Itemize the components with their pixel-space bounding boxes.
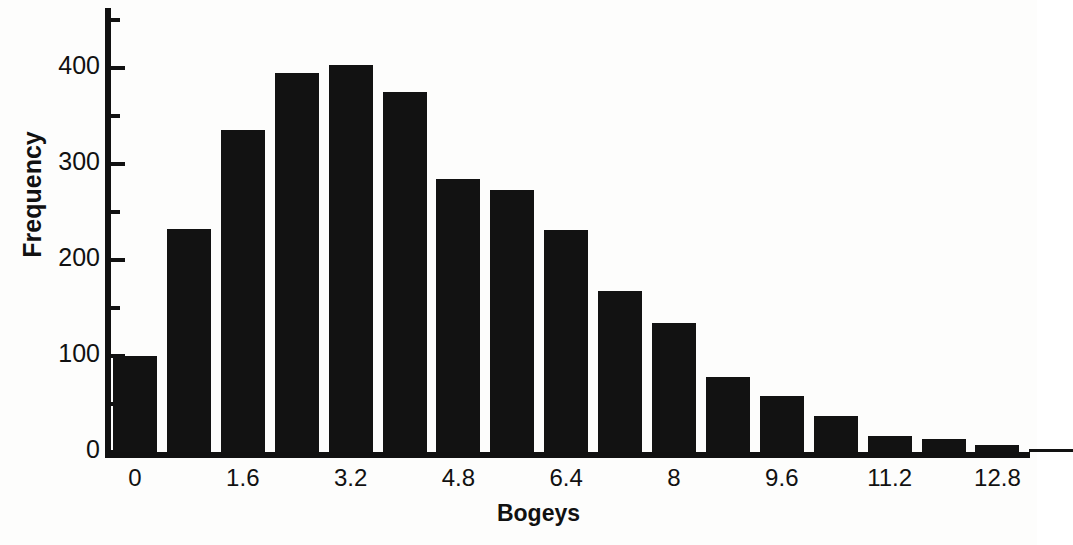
histogram-bar xyxy=(652,323,696,452)
histogram-bar xyxy=(598,291,642,452)
y-tick-minor xyxy=(111,306,120,310)
histogram-bar xyxy=(760,396,804,452)
histogram-bar xyxy=(814,416,858,452)
x-tick-label: 8 xyxy=(629,464,719,492)
y-tick-label: 300 xyxy=(20,147,100,176)
x-tick-label: 6.4 xyxy=(521,464,611,492)
y-tick-major xyxy=(111,162,125,166)
histogram-bar xyxy=(922,439,966,452)
y-tick-major xyxy=(111,258,125,262)
y-tick-minor xyxy=(111,210,120,214)
histogram-bar xyxy=(490,190,534,452)
histogram-bar xyxy=(436,179,480,452)
x-tick-label: 12.8 xyxy=(952,464,1042,492)
histogram-bar xyxy=(1029,449,1073,452)
x-axis-tick-labels: 01.63.24.86.489.611.212.8 xyxy=(105,464,1030,504)
x-tick-label: 9.6 xyxy=(737,464,827,492)
y-tick-minor xyxy=(111,114,120,118)
y-axis-spine xyxy=(105,8,111,458)
y-tick-label: 100 xyxy=(20,339,100,368)
histogram-bar xyxy=(975,445,1019,452)
x-tick-label: 3.2 xyxy=(306,464,396,492)
y-tick-label: 400 xyxy=(20,51,100,80)
histogram-bar xyxy=(383,92,427,452)
histogram-bar xyxy=(329,65,373,452)
x-tick-label: 1.6 xyxy=(198,464,288,492)
y-tick-major xyxy=(111,66,125,70)
x-tick-label: 11.2 xyxy=(845,464,935,492)
x-tick-label: 4.8 xyxy=(413,464,503,492)
x-tick-label: 0 xyxy=(90,464,180,492)
histogram-bar xyxy=(275,73,319,452)
x-axis-title-text: Bogeys xyxy=(497,500,580,526)
histogram-bar xyxy=(113,356,157,452)
y-tick-label: 0 xyxy=(20,435,100,464)
x-axis-spine xyxy=(105,452,1030,458)
y-axis-tick-labels: 0100200300400 xyxy=(12,8,100,458)
plot-area: 0100200300400 01.63.24.86.489.611.212.8 xyxy=(105,8,1030,458)
histogram-bar xyxy=(221,130,265,452)
y-tick-minor xyxy=(111,18,120,22)
y-tick-label: 200 xyxy=(20,243,100,272)
x-axis-title: Bogeys xyxy=(0,500,1037,527)
histogram-bar xyxy=(868,436,912,452)
histogram-bar xyxy=(544,230,588,452)
histogram-bar xyxy=(706,377,750,452)
histogram-bar xyxy=(167,229,211,452)
